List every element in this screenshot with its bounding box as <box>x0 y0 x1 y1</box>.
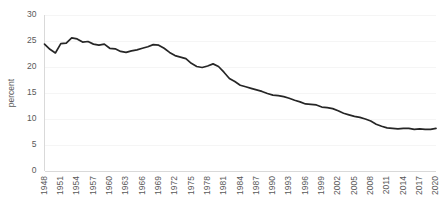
x-tick-labels-group: 1948195119541957196019631966196919721975… <box>39 176 440 195</box>
xtick-label-1984: 1984 <box>235 176 245 195</box>
xtick-label-1990: 1990 <box>267 176 277 195</box>
xtick-label-1975: 1975 <box>186 176 196 195</box>
y-tick-labels-group: 051015202530 <box>27 9 37 175</box>
xtick-label-1981: 1981 <box>218 176 228 195</box>
xtick-label-2011: 2011 <box>381 176 391 195</box>
xtick-label-1951: 1951 <box>55 176 65 195</box>
xtick-label-1966: 1966 <box>137 176 147 195</box>
xtick-label-2017: 2017 <box>414 176 424 195</box>
ytick-label-25: 25 <box>27 35 37 45</box>
xtick-label-2014: 2014 <box>398 176 408 195</box>
xtick-label-1969: 1969 <box>153 176 163 195</box>
ytick-label-30: 30 <box>27 9 37 19</box>
ytick-label-5: 5 <box>32 139 37 149</box>
xtick-label-1993: 1993 <box>283 176 293 195</box>
xtick-label-1999: 1999 <box>316 176 326 195</box>
ytick-label-15: 15 <box>27 87 37 97</box>
xtick-label-2008: 2008 <box>365 176 375 195</box>
xtick-label-1957: 1957 <box>88 176 98 195</box>
xtick-label-1978: 1978 <box>202 176 212 195</box>
xtick-label-2005: 2005 <box>349 176 359 195</box>
xtick-label-2002: 2002 <box>332 176 342 195</box>
xtick-label-1972: 1972 <box>169 176 179 195</box>
ytick-label-10: 10 <box>27 113 37 123</box>
xtick-label-1996: 1996 <box>300 176 310 195</box>
ytick-label-0: 0 <box>32 165 37 175</box>
series-group <box>45 38 437 130</box>
line-chart: 051015202530 194819511954195719601963196… <box>0 0 440 219</box>
xtick-label-1987: 1987 <box>251 176 261 195</box>
xtick-label-1954: 1954 <box>71 176 81 195</box>
y-axis-title-group: percent <box>6 78 16 107</box>
ytick-label-20: 20 <box>27 61 37 71</box>
y-axis-title: percent <box>6 78 16 107</box>
xtick-label-2020: 2020 <box>430 176 440 195</box>
xtick-label-1960: 1960 <box>104 176 114 195</box>
series-line-percent <box>45 38 437 130</box>
xtick-label-1963: 1963 <box>120 176 130 195</box>
xtick-label-1948: 1948 <box>39 176 49 195</box>
chart-container: 051015202530 194819511954195719601963196… <box>0 0 440 219</box>
